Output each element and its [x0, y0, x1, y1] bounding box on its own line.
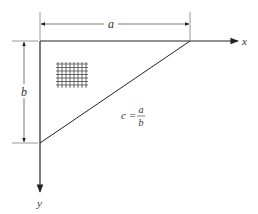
mesh-grid-icon	[56, 62, 88, 88]
a-label: a	[108, 17, 114, 31]
triangle-diagram: a b x y c = a b	[0, 0, 258, 214]
y-axis-label: y	[36, 197, 42, 209]
b-label: b	[21, 85, 27, 99]
x-axis-label: x	[241, 35, 247, 47]
formula-denominator: b	[139, 117, 144, 128]
formula-numerator: a	[139, 104, 144, 115]
hypotenuse	[40, 41, 190, 143]
formula-lhs: c =	[121, 109, 136, 121]
